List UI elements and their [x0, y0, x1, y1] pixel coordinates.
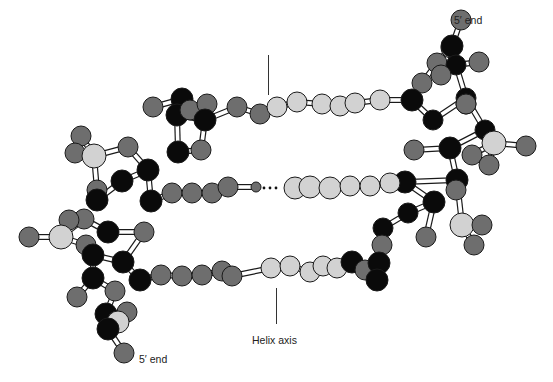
black-atom — [86, 189, 108, 211]
light-atom — [280, 256, 300, 276]
black-atom — [140, 190, 162, 212]
black-atom — [167, 141, 189, 163]
dark-atom — [172, 266, 192, 286]
dark-atom — [114, 343, 134, 363]
dark-atom — [67, 287, 87, 307]
dark-atom — [218, 177, 238, 197]
dark-atom — [431, 65, 451, 85]
light-atom — [345, 93, 365, 113]
black-atom — [401, 89, 423, 111]
atom-layer — [19, 10, 536, 363]
black-atom — [194, 109, 216, 131]
five-prime-end-label-top: 5′ end — [454, 14, 482, 26]
black-atom — [97, 221, 119, 243]
dark-atom — [118, 137, 138, 157]
black-atom — [97, 318, 119, 340]
light-atom — [360, 176, 380, 196]
light-atom — [450, 213, 474, 237]
helix-axis-label: Helix axis — [252, 334, 297, 346]
dna-base-pair-stack-diagram — [0, 0, 553, 382]
light-atom — [370, 90, 390, 110]
dark-atom — [222, 266, 242, 286]
light-atom — [299, 176, 321, 198]
black-atom — [398, 203, 418, 223]
light-atom — [482, 131, 506, 155]
black-atom — [111, 170, 133, 192]
black-atom — [439, 137, 461, 159]
dark-atom — [182, 183, 202, 203]
light-atom — [340, 176, 360, 196]
five-prime-end-label-bottom: 5′ end — [139, 353, 167, 365]
light-atom — [261, 258, 281, 278]
black-atom — [112, 251, 134, 273]
dark-atom — [227, 97, 247, 117]
light-atom — [312, 94, 332, 114]
dark-atom — [446, 180, 466, 200]
dark-atom — [191, 140, 211, 160]
dark-atom — [472, 215, 492, 235]
dark-atom — [516, 136, 536, 156]
black-atom — [423, 110, 443, 130]
hydrogen-bond-dots — [263, 187, 278, 190]
dark-atom — [469, 52, 489, 72]
light-atom — [267, 97, 287, 117]
black-atom — [137, 159, 159, 181]
dark-atom — [134, 222, 154, 242]
black-atom — [82, 244, 104, 266]
light-atom — [82, 144, 106, 168]
dark-atom — [456, 94, 476, 114]
dark-atom — [251, 182, 261, 192]
dark-atom — [19, 227, 39, 247]
dark-atom — [464, 235, 484, 255]
black-atom — [366, 269, 388, 291]
light-atom — [380, 173, 400, 193]
dark-atom — [479, 155, 499, 175]
light-atom — [319, 177, 341, 199]
dark-atom — [105, 281, 125, 301]
dark-atom — [151, 265, 171, 285]
light-atom — [49, 225, 73, 249]
black-atom — [423, 191, 445, 213]
helix-axis-bottom-line — [276, 288, 277, 324]
black-atom — [129, 269, 151, 291]
dark-atom — [143, 97, 163, 117]
helix-axis-top-line — [268, 55, 269, 95]
black-atom — [82, 267, 104, 289]
dark-atom — [404, 140, 424, 160]
dark-atom — [416, 227, 436, 247]
dark-atom — [162, 183, 182, 203]
black-atom — [441, 35, 463, 57]
light-atom — [287, 92, 307, 112]
dark-atom — [192, 265, 212, 285]
